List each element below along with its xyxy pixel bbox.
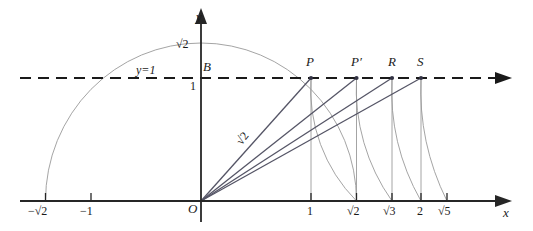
point-R-dot	[390, 76, 394, 80]
arc-S-to-sqrt5-path	[421, 78, 447, 201]
ray-O-to-P-line	[201, 78, 311, 201]
x-tick-label-neg-sqrt2: −√2	[28, 205, 47, 217]
point-Pprime-dot	[354, 76, 358, 80]
y-axis-label: y	[196, 10, 202, 23]
point-label-S: S	[417, 55, 424, 68]
arc-Pprime-to-sqrt3-path	[356, 78, 392, 201]
arc-R-to-2-path	[392, 78, 421, 201]
point-P-dot	[309, 76, 313, 80]
point-label-P-prime: P′	[351, 55, 362, 68]
point-label-R: R	[388, 55, 396, 68]
x-tick-label-sqrt3: √3	[383, 205, 396, 217]
x-tick-label-1: 1	[307, 205, 313, 217]
x-tick-label-neg-1: −1	[80, 205, 93, 217]
point-S-dot	[419, 76, 423, 80]
line-y1-arrowhead	[495, 72, 512, 84]
x-tick-label-sqrt2: √2	[347, 205, 360, 217]
y-tick-label-1: 1	[190, 80, 196, 92]
x-tick-label-sqrt5: √5	[438, 205, 451, 217]
figure-canvas	[0, 0, 533, 231]
y-tick-label-sqrt2: √2	[176, 38, 189, 50]
line-y-equals-1-label: y=1	[136, 64, 155, 76]
ray-O-to-Pprime-line	[201, 78, 357, 201]
point-label-B: B	[203, 60, 211, 73]
point-label-P: P	[306, 55, 314, 68]
x-tick-label-2: 2	[417, 205, 423, 217]
geometry-figure: y x O √2 1 −√2 −1 1 √2 √3 2 √5 y=1 B P P…	[0, 0, 533, 231]
x-axis-label: x	[503, 206, 509, 219]
origin-label: O	[188, 202, 197, 215]
